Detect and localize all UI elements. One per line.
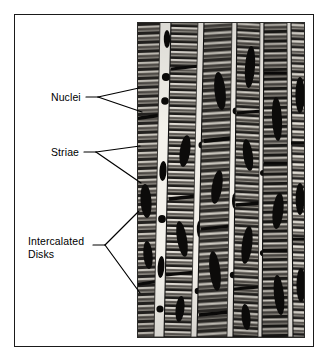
- label-intercalated-disks: Intercalated Disks: [28, 235, 84, 260]
- label-striae: Striae: [51, 146, 79, 159]
- micrograph-svg: [138, 23, 304, 337]
- figure-root: Nuclei Striae Intercalated Disks: [0, 0, 330, 362]
- micrograph-image: [137, 22, 305, 338]
- label-nuclei: Nuclei: [51, 91, 81, 104]
